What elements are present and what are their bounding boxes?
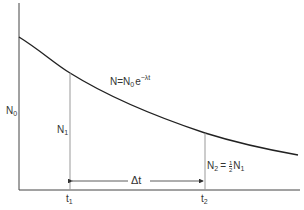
n2-label: N2=12N1 bbox=[207, 160, 244, 173]
t2-sub: 2 bbox=[204, 198, 208, 205]
decay-diagram: N=N0e−λt N0 N1 N2=12N1 t1 t2 Δt bbox=[0, 0, 304, 210]
t1-sub: 1 bbox=[69, 198, 73, 205]
eq-exponent: −λt bbox=[141, 74, 151, 81]
half-fraction: 12 bbox=[229, 160, 232, 173]
n1-label: N1 bbox=[57, 125, 68, 136]
n2-rhs-sub: 1 bbox=[241, 165, 245, 172]
frac-den: 2 bbox=[229, 166, 232, 173]
n1-sub: 1 bbox=[64, 129, 68, 136]
n0-label: N0 bbox=[6, 106, 17, 117]
n2-eq: = bbox=[220, 160, 226, 171]
n2-sub: 2 bbox=[214, 165, 218, 172]
decay-curve bbox=[19, 37, 298, 155]
frac-num: 1 bbox=[229, 160, 232, 166]
delta-t-label: Δt bbox=[131, 175, 141, 186]
n0-sub: 0 bbox=[13, 110, 17, 117]
diagram-graphics bbox=[0, 0, 304, 210]
t1-label: t1 bbox=[66, 194, 73, 205]
equation-label: N=N0e−λt bbox=[110, 74, 150, 88]
eq-n0-sub: 0 bbox=[130, 81, 134, 88]
n2-rhs-main: N bbox=[233, 160, 240, 171]
t2-label: t2 bbox=[201, 194, 208, 205]
